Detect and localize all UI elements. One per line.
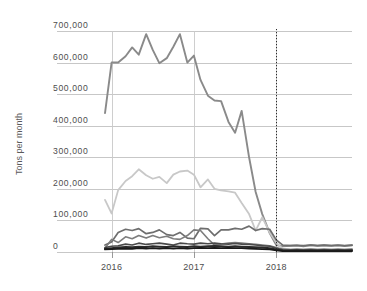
x-tick-label-2016: 2016 xyxy=(101,262,122,272)
y-axis-title: Tons per month xyxy=(14,113,24,175)
x-tick-label-2018: 2018 xyxy=(266,262,287,272)
y-tick-label-4: 400,000 xyxy=(53,115,88,125)
y-tick-label-6: 600,000 xyxy=(53,52,88,62)
y-tick-label-0: 0 xyxy=(53,241,58,251)
y-tick-label-1: 100,000 xyxy=(53,209,88,219)
y-tick-label-7: 700,000 xyxy=(53,20,88,30)
x-tick-label-2017: 2017 xyxy=(183,262,204,272)
y-tick-label-2: 200,000 xyxy=(53,178,88,188)
y-tick-label-5: 500,000 xyxy=(53,83,88,93)
chart-container: 0100,000200,000300,000400,000500,000600,… xyxy=(0,0,367,291)
line-chart: 0100,000200,000300,000400,000500,000600,… xyxy=(0,0,367,291)
y-tick-label-3: 300,000 xyxy=(53,146,88,156)
